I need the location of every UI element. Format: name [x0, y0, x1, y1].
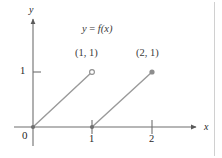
x-tick-label-1: 1 [89, 134, 94, 145]
x-axis-label: x [204, 122, 208, 132]
y-tick-label-1: 1 [20, 66, 25, 77]
closed-point-1-0 [90, 125, 94, 129]
open-point-1-1 [90, 70, 95, 75]
closed-point-2-1 [149, 69, 154, 74]
origin-label: 0 [22, 130, 28, 141]
math-figure: y x 0 1 1 2 y = f(x) (1, 1) (2, 1) [0, 0, 222, 158]
x-tick-label-2: 2 [149, 134, 154, 145]
function-segment-2 [92, 72, 152, 127]
function-equation-rhs: f(x) [98, 23, 113, 34]
function-segment-1 [33, 72, 92, 127]
point-label-1-1: (1, 1) [75, 48, 98, 59]
point-label-2-1: (2, 1) [136, 48, 159, 59]
function-equation-label: y = f(x) [82, 24, 112, 35]
y-axis-label: y [29, 5, 33, 15]
function-equation-operator: = [87, 23, 98, 34]
closed-point-origin [31, 125, 35, 129]
